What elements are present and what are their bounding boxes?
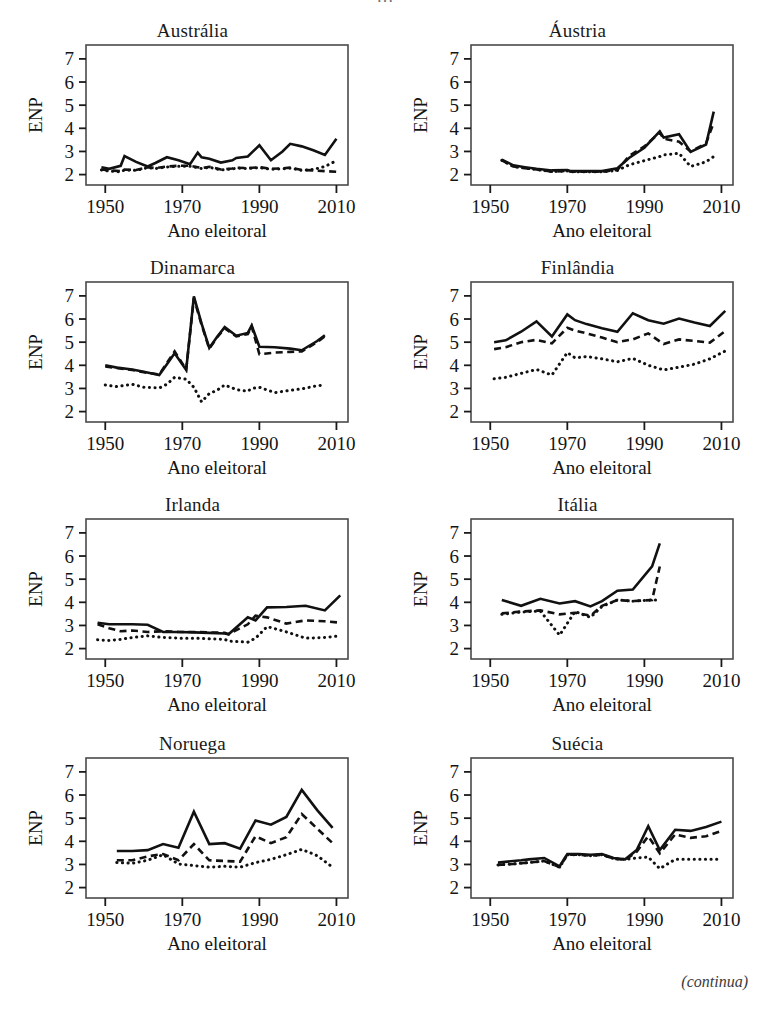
plot-area: 2345671950197019902010Ano eleitoralENP [385,255,770,494]
y-tick-label: 6 [450,72,460,93]
y-axis-label: ENP [25,810,46,846]
series-line-dotted [494,351,725,379]
plot-area: 2345671950197019902010Ano eleitoralENP [0,255,385,494]
y-axis-label: ENP [410,810,431,846]
y-tick-label: 2 [65,401,75,422]
y-tick-label: 4 [65,831,75,852]
y-tick-label: 3 [65,141,75,162]
series-line-dashed [105,298,325,374]
plot-area: 2345671950197019902010Ano eleitoralENP [0,731,385,970]
x-tick-label: 1950 [471,196,509,217]
x-tick-label: 2010 [702,909,740,930]
plot-frame [86,45,348,185]
x-tick-label: 1990 [625,433,663,454]
x-tick-label: 2010 [317,909,355,930]
x-tick-label: 2010 [702,433,740,454]
x-tick-label: 1970 [163,909,201,930]
series-line-solid [105,296,325,375]
y-tick-label: 5 [450,569,460,590]
series-line-dashed [502,123,714,172]
y-tick-label: 3 [65,378,75,399]
y-tick-label: 6 [65,309,75,330]
x-tick-label: 1950 [86,196,124,217]
chart-panel: Finlândia2345671950197019902010Ano eleit… [385,255,770,492]
y-axis-label: ENP [410,97,431,133]
y-tick-label: 5 [65,808,75,829]
series-line-solid [494,311,725,342]
x-tick-label: 1970 [548,433,586,454]
x-axis-label: Ano eleitoral [552,220,652,241]
x-tick-label: 1970 [163,196,201,217]
y-tick-label: 6 [65,72,75,93]
x-tick-label: 1970 [548,670,586,691]
y-tick-label: 5 [450,808,460,829]
x-tick-label: 1990 [240,196,278,217]
plot-area: 2345671950197019902010Ano eleitoralENP [385,492,770,731]
y-axis-label: ENP [410,571,431,607]
y-tick-label: 4 [65,592,75,613]
x-tick-label: 1990 [240,670,278,691]
series-line-solid [98,595,341,634]
plot-frame [471,519,733,659]
plot-frame [471,282,733,422]
y-tick-label: 5 [450,332,460,353]
y-tick-label: 2 [450,164,460,185]
series-line-solid [502,112,714,171]
x-tick-label: 1970 [163,433,201,454]
x-tick-label: 1950 [471,433,509,454]
y-tick-label: 6 [450,546,460,567]
chart-panel: Dinamarca2345671950197019902010Ano eleit… [0,255,385,492]
y-tick-label: 4 [450,831,460,852]
x-axis-label: Ano eleitoral [167,220,267,241]
panel-grid: Austrália2345671950197019902010Ano eleit… [0,18,770,970]
x-tick-label: 1990 [240,909,278,930]
y-tick-label: 7 [65,761,75,782]
plot-frame [471,758,733,898]
y-tick-label: 7 [65,285,75,306]
chart-panel: Irlanda2345671950197019902010Ano eleitor… [0,492,385,731]
x-tick-label: 1950 [86,909,124,930]
y-tick-label: 5 [65,95,75,116]
y-tick-label: 3 [450,141,460,162]
x-tick-label: 1990 [240,433,278,454]
x-tick-label: 2010 [317,433,355,454]
series-line-dashed [117,814,333,862]
y-tick-label: 2 [450,877,460,898]
x-tick-label: 1990 [625,196,663,217]
y-tick-label: 2 [65,164,75,185]
y-tick-label: 7 [65,522,75,543]
chart-panel: Austrália2345671950197019902010Ano eleit… [0,18,385,255]
y-tick-label: 7 [450,761,460,782]
y-axis-label: ENP [25,571,46,607]
x-tick-label: 1950 [471,909,509,930]
y-tick-label: 2 [65,638,75,659]
figure-root: … Austrália2345671950197019902010Ano ele… [0,0,770,1027]
plot-frame [86,282,348,422]
series-line-dashed [502,566,660,615]
x-tick-label: 1950 [86,670,124,691]
series-line-solid [502,543,660,606]
y-tick-label: 4 [450,118,460,139]
y-tick-label: 5 [65,332,75,353]
y-tick-label: 6 [65,546,75,567]
y-tick-label: 3 [450,854,460,875]
plot-frame [86,758,348,898]
chart-panel: Noruega2345671950197019902010Ano eleitor… [0,731,385,970]
y-tick-label: 5 [65,569,75,590]
y-tick-label: 3 [65,854,75,875]
y-tick-label: 6 [450,785,460,806]
y-tick-label: 2 [65,877,75,898]
y-tick-label: 5 [450,95,460,116]
y-tick-label: 7 [65,48,75,69]
y-tick-label: 3 [450,615,460,636]
x-tick-label: 2010 [702,670,740,691]
y-tick-label: 6 [450,309,460,330]
series-line-solid [101,139,336,169]
chart-panel: Suécia2345671950197019902010Ano eleitora… [385,731,770,970]
cropped-header-text: … [0,0,770,7]
plot-area: 2345671950197019902010Ano eleitoralENP [385,18,770,257]
x-axis-label: Ano eleitoral [167,933,267,954]
series-line-solid [117,790,333,851]
y-tick-label: 2 [450,401,460,422]
y-tick-label: 2 [450,638,460,659]
